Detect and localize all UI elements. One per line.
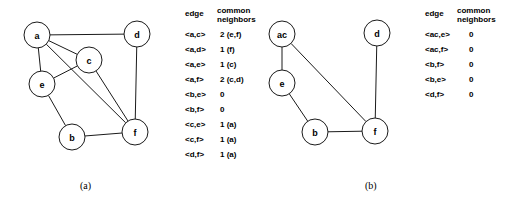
graph-node-c: c [76,47,102,73]
graph-edge-ac-f [291,43,366,121]
common-neighbors-cell: 1 (a) [220,150,236,159]
table-b-header-neighbors: neighbors [457,15,496,24]
common-neighbors-cell: 0 [469,45,473,54]
graph-node-f: f [122,119,148,145]
edge-cell: <a,f> [185,75,204,84]
edge-cell: <b,e> [185,90,206,99]
node-label-e: e [39,80,44,90]
graph-edge-d-f [375,46,376,118]
node-label-a: a [34,31,40,41]
edge-cell: <a,e> [185,60,205,69]
node-circle-c [76,47,102,73]
figure-container: acdebf acdebf (a) (b) edge common neighb… [0,0,516,206]
edge-cell: <ac,f> [425,45,448,54]
graph-edge-a-e [38,48,40,71]
node-label-f: f [374,127,378,137]
common-neighbors-cell: 1 (a) [220,135,236,144]
edge-cell: <d,f> [185,150,204,159]
table-a-header-edge: edge [185,9,204,18]
graph-node-ac: ac [269,21,295,47]
table-b-header-common-neighbors: common neighbors [457,6,496,24]
common-neighbors-cell: 2 (c,d) [220,75,244,84]
node-circle-b [302,119,328,145]
edge-cell: <c,e> [185,120,205,129]
table-b-header-common: common [457,6,496,15]
edge-cell: <b,f> [425,60,444,69]
edge-cell: <a,d> [185,45,206,54]
node-label-c: c [86,56,91,66]
common-neighbors-cell: 0 [469,75,473,84]
node-circle-e [29,71,55,97]
common-neighbors-cell: 1 (f) [220,45,235,54]
graph-edge-e-b [48,95,65,125]
node-circle-d [124,21,150,47]
graph-node-b: b [59,124,85,150]
common-neighbors-cell: 0 [469,60,473,69]
edge-cell: <d,f> [425,90,444,99]
edge-cell: <c,f> [185,135,204,144]
common-neighbors-cell: 0 [469,90,473,99]
table-a-header-common-neighbors: common neighbors [217,6,256,24]
node-label-d: d [374,29,380,39]
graph-edge-c-f [96,71,128,121]
node-circle-f [362,118,388,144]
common-neighbors-cell: 0 [220,90,224,99]
graph-edge-c-e [54,66,78,78]
node-label-ac: ac [277,30,287,40]
edge-cell: <a,c> [185,30,205,39]
graph-node-d: d [124,21,150,47]
graph-edge-e-b [289,94,307,121]
common-neighbors-cell: 0 [469,30,473,39]
node-label-b: b [312,128,318,138]
common-neighbors-cell: 1 (c) [220,60,236,69]
node-circle-ac [269,21,295,47]
graph-edge-a-c [49,41,78,55]
node-circle-d [364,20,390,46]
common-neighbors-cell: 0 [220,105,224,114]
table-b-header-edge: edge [425,9,444,18]
node-label-e: e [279,79,284,89]
graph-node-d: d [364,20,390,46]
edge-cell: <ac,e> [425,30,450,39]
graph-node-a: a [24,22,50,48]
edge-cell: <b,f> [185,105,204,114]
common-neighbors-cell: 1 (a) [220,120,236,129]
table-a-header-neighbors: neighbors [217,15,256,24]
common-neighbors-cell: 2 (e,f) [220,30,241,39]
caption-panel-a: (a) [80,180,91,191]
node-label-f: f [134,128,138,138]
graph-node-f: f [362,118,388,144]
caption-panel-b: (b) [365,180,377,191]
node-circle-e [269,70,295,96]
graph-edge-a-d [50,34,124,35]
graph-node-b: b [302,119,328,145]
graph-node-e: e [269,70,295,96]
node-circle-b [59,124,85,150]
graph-edge-b-f [328,131,362,132]
node-circle-a [24,22,50,48]
graph-edge-d-f [135,47,136,119]
node-circle-f [122,119,148,145]
table-a-header-common: common [217,6,256,15]
graph-edge-a-f [46,44,126,123]
node-label-b: b [69,133,75,143]
edge-cell: <b,e> [425,75,446,84]
node-label-d: d [134,30,140,40]
graph-node-e: e [29,71,55,97]
graph-edge-b-f [85,133,122,136]
